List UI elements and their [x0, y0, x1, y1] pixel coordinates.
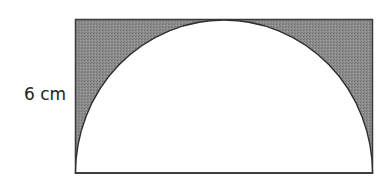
height-label: 6 cm — [24, 84, 66, 104]
